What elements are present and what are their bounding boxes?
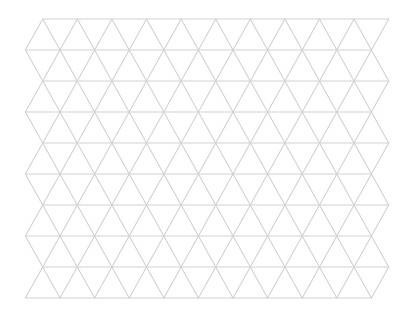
grid-diagonal-line	[216, 236, 233, 267]
grid-diagonal-line	[77, 205, 94, 236]
grid-diagonal-line	[371, 236, 388, 267]
grid-diagonal-line	[112, 81, 129, 112]
grid-diagonal-line	[95, 81, 112, 112]
grid-diagonal-line	[43, 267, 60, 298]
grid-diagonal-line	[95, 50, 112, 81]
grid-diagonal-line	[354, 236, 371, 267]
grid-diagonal-line	[25, 267, 42, 298]
grid-diagonal-line	[268, 174, 285, 205]
grid-diagonal-line	[25, 112, 42, 143]
grid-diagonal-line	[198, 267, 215, 298]
grid-diagonal-line	[77, 236, 94, 267]
grid-diagonal-line	[147, 267, 164, 298]
grid-diagonal-line	[25, 50, 42, 81]
grid-diagonal-line	[250, 143, 267, 174]
grid-diagonal-line	[216, 50, 233, 81]
grid-diagonal-line	[268, 50, 285, 81]
grid-diagonal-line	[354, 81, 371, 112]
grid-diagonal-line	[147, 50, 164, 81]
grid-diagonal-line	[129, 143, 146, 174]
grid-diagonal-line	[320, 112, 337, 143]
grid-diagonal-line	[337, 143, 354, 174]
grid-diagonal-line	[198, 236, 215, 267]
grid-diagonal-line	[60, 174, 77, 205]
grid-diagonal-line	[181, 174, 198, 205]
grid-diagonal-line	[233, 205, 250, 236]
grid-diagonal-line	[250, 50, 267, 81]
grid-diagonal-line	[181, 19, 198, 50]
grid-diagonal-line	[198, 205, 215, 236]
grid-diagonal-line	[147, 143, 164, 174]
grid-diagonal-line	[250, 205, 267, 236]
grid-diagonal-line	[112, 174, 129, 205]
grid-diagonal-line	[285, 81, 302, 112]
grid-diagonal-line	[129, 50, 146, 81]
grid-diagonal-line	[129, 19, 146, 50]
grid-diagonal-line	[320, 267, 337, 298]
grid-diagonal-line	[95, 174, 112, 205]
grid-diagonal-line	[233, 143, 250, 174]
grid-diagonal-line	[354, 174, 371, 205]
grid-diagonal-line	[95, 205, 112, 236]
grid-diagonal-line	[25, 19, 42, 50]
grid-diagonal-line	[112, 267, 129, 298]
grid-diagonal-line	[129, 174, 146, 205]
grid-diagonal-line	[337, 205, 354, 236]
grid-diagonal-line	[181, 205, 198, 236]
grid-diagonal-line	[164, 267, 181, 298]
grid-diagonal-line	[112, 205, 129, 236]
grid-diagonal-line	[320, 19, 337, 50]
grid-diagonal-line	[77, 50, 94, 81]
grid-diagonal-line	[95, 112, 112, 143]
grid-diagonal-line	[302, 81, 319, 112]
grid-diagonal-line	[371, 19, 388, 50]
grid-diagonal-line	[285, 174, 302, 205]
grid-diagonal-line	[250, 19, 267, 50]
grid-diagonal-line	[60, 205, 77, 236]
grid-diagonal-line	[147, 19, 164, 50]
grid-diagonal-line	[268, 81, 285, 112]
grid-diagonal-line	[302, 19, 319, 50]
grid-diagonal-line	[60, 81, 77, 112]
grid-diagonal-line	[216, 81, 233, 112]
grid-diagonal-line	[354, 143, 371, 174]
grid-diagonal-line	[25, 205, 42, 236]
grid-diagonal-line	[164, 50, 181, 81]
grid-diagonal-line	[147, 205, 164, 236]
grid-diagonal-line	[60, 143, 77, 174]
grid-diagonal-line	[250, 267, 267, 298]
grid-diagonal-line	[43, 174, 60, 205]
grid-diagonal-line	[129, 236, 146, 267]
grid-diagonal-line	[198, 143, 215, 174]
grid-diagonal-line	[43, 112, 60, 143]
grid-diagonal-line	[354, 19, 371, 50]
grid-diagonal-line	[285, 112, 302, 143]
grid-diagonal-line	[164, 112, 181, 143]
grid-diagonal-line	[250, 174, 267, 205]
grid-diagonal-line	[268, 143, 285, 174]
grid-diagonal-line	[216, 19, 233, 50]
grid-diagonal-line	[77, 143, 94, 174]
grid-diagonal-line	[233, 81, 250, 112]
grid-diagonal-line	[60, 19, 77, 50]
grid-diagonal-line	[354, 267, 371, 298]
grid-diagonal-line	[129, 267, 146, 298]
grid-diagonal-line	[233, 267, 250, 298]
grid-diagonal-line	[25, 81, 42, 112]
grid-diagonal-line	[320, 81, 337, 112]
triangle-grid-canvas	[0, 0, 413, 320]
grid-diagonal-line	[164, 19, 181, 50]
grid-diagonal-line	[112, 236, 129, 267]
grid-diagonal-line	[320, 143, 337, 174]
grid-diagonal-line	[198, 174, 215, 205]
grid-diagonal-line	[268, 205, 285, 236]
grid-diagonal-line	[354, 205, 371, 236]
grid-diagonal-line	[302, 174, 319, 205]
grid-diagonal-line	[233, 236, 250, 267]
grid-diagonal-line	[302, 112, 319, 143]
grid-diagonal-line	[60, 236, 77, 267]
grid-diagonal-line	[181, 236, 198, 267]
grid-diagonal-line	[268, 19, 285, 50]
grid-diagonal-line	[198, 81, 215, 112]
grid-diagonal-line	[371, 174, 388, 205]
